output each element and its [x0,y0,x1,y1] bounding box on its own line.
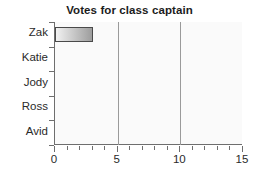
x-axis-tick-minor [229,146,230,150]
y-axis-label-avid: Avid [2,125,48,137]
y-axis-label-zak: Zak [2,26,48,38]
x-axis-tick-minor [204,146,205,150]
x-axis-tick-major [54,146,55,152]
x-axis: 051015 [54,146,242,170]
gridline [180,22,181,145]
x-axis-tick-minor [129,146,130,150]
plot-canvas [55,22,243,145]
x-axis-label-0: 0 [39,153,69,165]
chart-title: Votes for class captain [0,4,259,16]
x-axis-label-10: 10 [164,153,194,165]
x-axis-tick-minor [217,146,218,150]
x-axis-tick-minor [79,146,80,150]
gridline [118,22,119,145]
x-axis-tick-major [179,146,180,152]
x-axis-tick-minor [67,146,68,150]
y-axis-label-jody: Jody [2,76,48,88]
x-axis-label-5: 5 [102,153,132,165]
x-axis-tick-major [117,146,118,152]
x-axis-tick-major [242,146,243,152]
y-axis-label-katie: Katie [2,51,48,63]
x-axis-tick-minor [142,146,143,150]
x-axis-tick-minor [192,146,193,150]
plot-area [54,22,242,145]
y-axis-label-ross: Ross [2,100,48,112]
x-axis-tick-minor [167,146,168,150]
bar-chart: Votes for class captain AvidRossJodyKati… [0,0,259,170]
x-axis-tick-minor [92,146,93,150]
x-axis-label-15: 15 [227,153,257,165]
x-axis-tick-minor [154,146,155,150]
x-axis-tick-minor [104,146,105,150]
bar-zak [55,27,93,42]
